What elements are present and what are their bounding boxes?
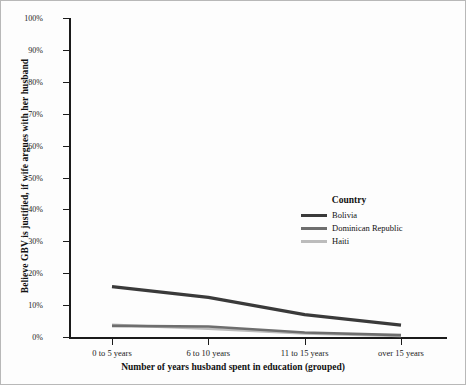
- legend-swatch: [301, 227, 327, 231]
- legend-item-label: Dominican Republic: [332, 223, 403, 234]
- y-tick-label: 100%: [3, 14, 43, 23]
- series-line: [112, 287, 401, 326]
- x-tick-label: 0 to 5 years: [67, 348, 157, 358]
- x-tick: [305, 339, 306, 345]
- legend-item[interactable]: Bolivia: [301, 210, 451, 221]
- y-tick-label: 20%: [3, 269, 43, 278]
- legend: Country BoliviaDominican RepublicHaiti: [301, 195, 451, 249]
- y-tick-label: 80%: [3, 77, 43, 86]
- chart-container: Believe GBV is justified, if wife argues…: [0, 0, 466, 385]
- y-tick-label: 70%: [3, 109, 43, 118]
- series-line: [112, 326, 401, 335]
- legend-swatch: [301, 240, 327, 244]
- x-tick-label: over 15 years: [356, 348, 446, 358]
- x-tick: [112, 339, 113, 345]
- legend-title: Country: [301, 195, 397, 205]
- series-lines: [69, 18, 447, 339]
- plot-area: 100%90%80%70%60%50%40%30%20%10%0% 0 to 5…: [69, 18, 447, 338]
- legend-item[interactable]: Haiti: [301, 236, 451, 247]
- x-tick: [401, 339, 402, 345]
- legend-item-label: Bolivia: [332, 210, 357, 221]
- x-tick-label: 6 to 10 years: [163, 348, 253, 358]
- legend-item[interactable]: Dominican Republic: [301, 223, 451, 234]
- x-axis-title: Number of years husband spent in educati…: [1, 362, 465, 372]
- x-tick-label: 11 to 15 years: [260, 348, 350, 358]
- y-tick-label: 60%: [3, 141, 43, 150]
- legend-items: BoliviaDominican RepublicHaiti: [301, 210, 451, 247]
- legend-swatch: [301, 214, 327, 218]
- x-tick: [208, 339, 209, 345]
- y-tick-label: 40%: [3, 205, 43, 214]
- y-tick-label: 90%: [3, 45, 43, 54]
- y-tick-label: 0%: [3, 333, 43, 342]
- legend-item-label: Haiti: [332, 236, 349, 247]
- y-tick-label: 30%: [3, 237, 43, 246]
- y-tick-label: 50%: [3, 173, 43, 182]
- y-tick-label: 10%: [3, 301, 43, 310]
